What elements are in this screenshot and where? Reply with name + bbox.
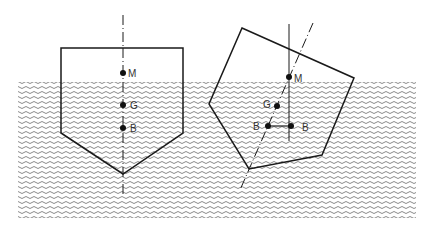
upright-gravity-point xyxy=(120,102,126,108)
upright-buoyancy-label: B xyxy=(130,123,137,134)
ship-stability-diagram: M G B M G B B xyxy=(0,0,432,229)
heeled-metacenter-point xyxy=(286,74,292,80)
heeled-gravity-label: G xyxy=(263,99,271,110)
heeled-metacenter-label: M xyxy=(294,73,302,84)
heeled-buoyancy-original-point xyxy=(265,123,271,129)
upright-metacenter-point xyxy=(120,70,126,76)
heeled-buoyancy-shifted-label: B xyxy=(302,122,309,133)
water-area xyxy=(18,82,416,218)
upright-metacenter-label: M xyxy=(128,68,136,79)
upright-buoyancy-point xyxy=(120,125,126,131)
upright-gravity-label: G xyxy=(130,100,138,111)
heeled-buoyancy-original-label: B xyxy=(253,121,260,132)
heeled-gravity-point xyxy=(274,103,280,109)
heeled-buoyancy-shifted-point xyxy=(288,123,294,129)
